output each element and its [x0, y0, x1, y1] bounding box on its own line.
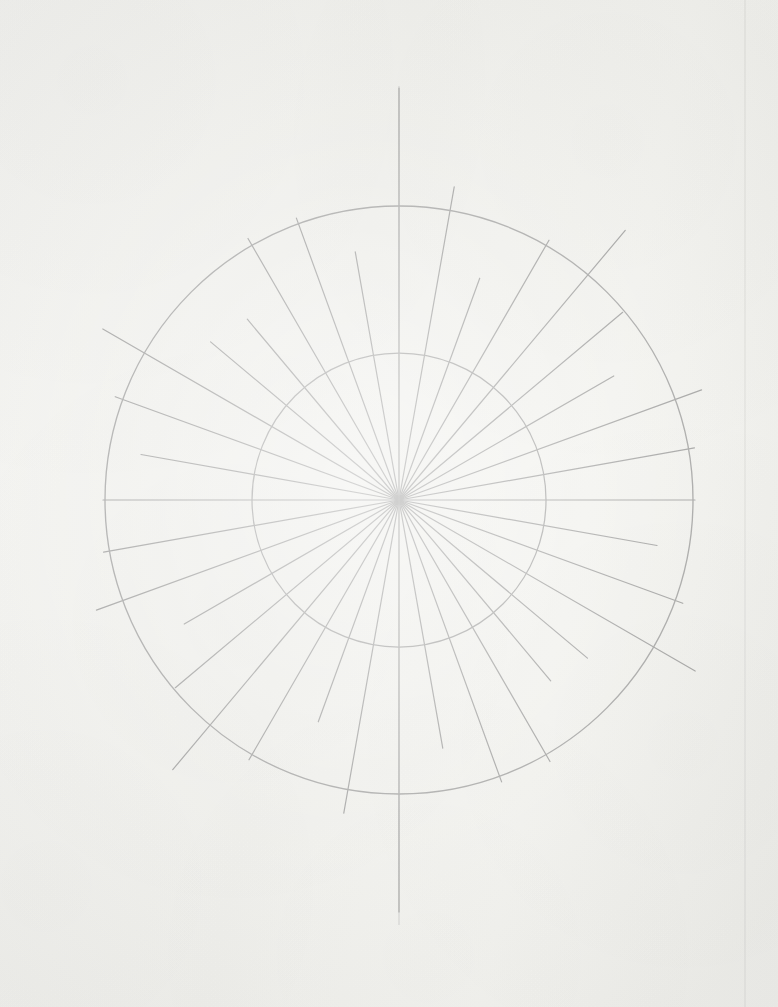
spoke-70 — [399, 390, 702, 500]
spoke-40 — [399, 230, 625, 500]
radial-diagram — [0, 0, 778, 1007]
spoke-220 — [173, 500, 399, 770]
figure-page — [0, 0, 778, 1007]
spoke-250 — [96, 500, 399, 610]
